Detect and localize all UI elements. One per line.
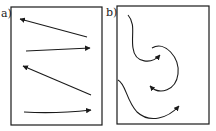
curved-arrow-b2	[150, 46, 178, 91]
curved-arrow-b1	[128, 15, 160, 61]
arrow-a1	[20, 19, 87, 37]
panel-b	[117, 6, 209, 124]
panel-a-frame	[11, 7, 102, 125]
panel-a	[11, 7, 102, 125]
arrow-a2	[26, 48, 90, 51]
arrow-a3	[23, 66, 91, 95]
panel-b-frame	[117, 6, 209, 124]
arrow-a4	[24, 110, 91, 113]
curved-arrow-b3	[118, 80, 179, 119]
diagram-canvas	[0, 0, 216, 131]
